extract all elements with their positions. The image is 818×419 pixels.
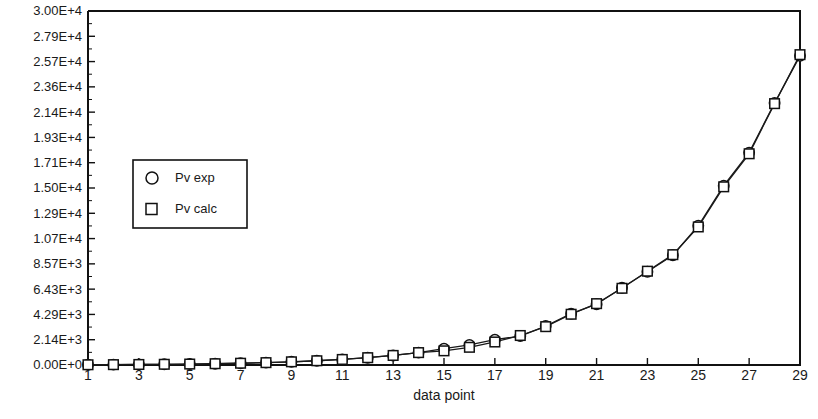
y-tick-label: 2.36E+4	[33, 79, 82, 94]
y-tick-label: 3.00E+4	[33, 3, 82, 18]
x-tick-label: 21	[589, 367, 605, 383]
data-point-marker-square	[719, 182, 729, 192]
chart-svg: 0.00E+02.14E+34.29E+36.43E+38.57E+31.07E…	[0, 0, 818, 419]
data-point-marker-square	[210, 359, 220, 369]
x-tick-label: 29	[792, 367, 808, 383]
legend-marker-square	[146, 204, 157, 215]
data-point-marker-square	[490, 337, 500, 347]
legend: Pv expPv calc	[133, 160, 247, 228]
data-point-marker-square	[159, 359, 169, 369]
x-tick-label: 23	[640, 367, 656, 383]
y-tick-labels: 0.00E+02.14E+34.29E+36.43E+38.57E+31.07E…	[33, 3, 82, 372]
data-point-marker-square	[566, 309, 576, 319]
data-point-marker-square	[287, 357, 297, 367]
y-tick-label: 2.79E+4	[33, 29, 82, 44]
chart-container: 0.00E+02.14E+34.29E+36.43E+38.57E+31.07E…	[0, 0, 818, 419]
x-tick-labels: 1357911131517192123252729	[84, 367, 808, 383]
y-tick-label: 1.50E+4	[33, 180, 82, 195]
data-point-marker-square	[515, 331, 525, 341]
data-point-marker-square	[795, 50, 805, 60]
y-tick-label: 1.29E+4	[33, 206, 82, 221]
x-axis-title: data point	[413, 387, 475, 403]
y-tick-label: 2.57E+4	[33, 54, 82, 69]
data-point-marker-square	[109, 360, 119, 370]
x-tick-label: 7	[237, 367, 245, 383]
data-point-marker-square	[668, 250, 678, 260]
data-point-marker-square	[83, 360, 93, 370]
x-tick-label: 27	[741, 367, 757, 383]
y-tick-label: 6.43E+3	[33, 282, 82, 297]
x-tick-label: 9	[288, 367, 296, 383]
data-point-marker-square	[693, 222, 703, 232]
legend-label: Pv calc	[175, 201, 217, 216]
data-point-marker-square	[592, 299, 602, 309]
data-point-marker-square	[134, 360, 144, 370]
data-point-marker-square	[337, 355, 347, 365]
x-tick-label: 17	[487, 367, 503, 383]
data-point-marker-square	[261, 358, 271, 368]
x-tick-label: 25	[690, 367, 706, 383]
x-tick-label: 13	[385, 367, 401, 383]
y-tick-label: 2.14E+4	[33, 105, 82, 120]
data-point-marker-square	[770, 99, 780, 109]
y-tick-label: 8.57E+3	[33, 256, 82, 271]
data-point-marker-square	[744, 149, 754, 159]
y-tick-label: 1.93E+4	[33, 130, 82, 145]
data-point-marker-square	[414, 348, 424, 358]
data-point-marker-square	[439, 346, 449, 356]
legend-label: Pv exp	[175, 170, 215, 185]
data-point-marker-square	[465, 343, 475, 353]
data-point-marker-square	[541, 322, 551, 332]
data-point-marker-square	[236, 358, 246, 368]
data-point-marker-square	[185, 359, 195, 369]
data-point-marker-square	[617, 284, 627, 294]
x-tick-label: 15	[436, 367, 452, 383]
data-point-marker-square	[643, 266, 653, 276]
x-tick-label: 19	[538, 367, 554, 383]
y-tick-label: 1.07E+4	[33, 231, 82, 246]
legend-marker-circle	[146, 172, 158, 184]
y-tick-marks	[88, 11, 95, 365]
x-tick-label: 11	[335, 367, 350, 383]
y-tick-label: 0.00E+0	[33, 357, 82, 372]
data-point-marker-square	[363, 353, 373, 363]
data-point-marker-square	[388, 351, 398, 361]
y-tick-label: 2.14E+3	[33, 332, 82, 347]
data-point-marker-square	[312, 356, 322, 366]
y-tick-label: 4.29E+3	[33, 307, 82, 322]
y-tick-label: 1.71E+4	[33, 155, 82, 170]
